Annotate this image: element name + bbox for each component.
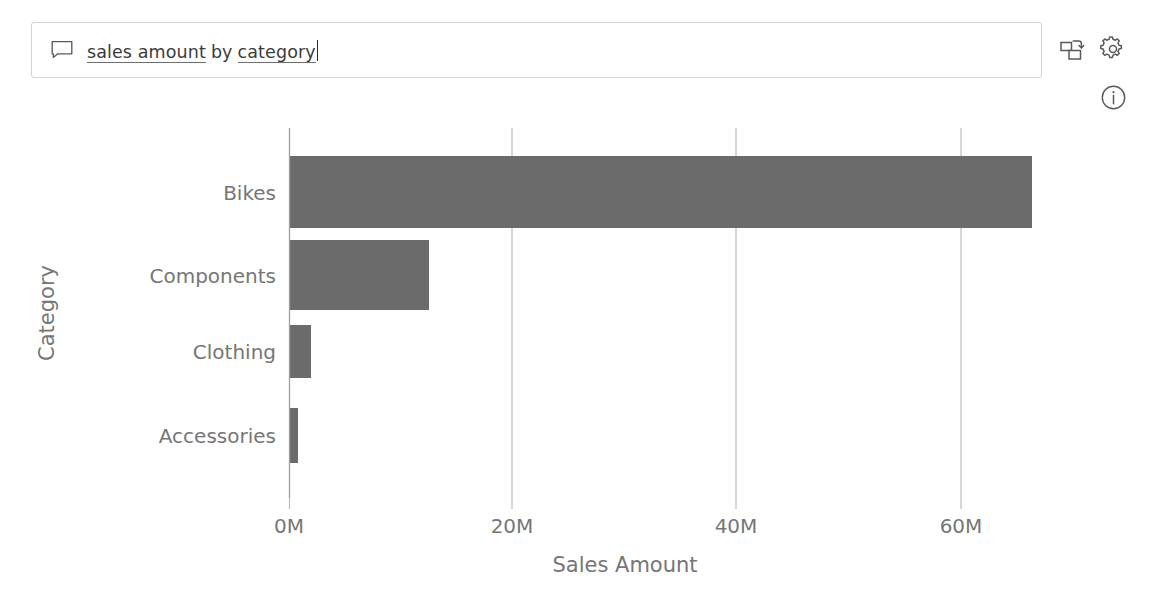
qna-token-keyword: by: [211, 44, 233, 63]
y-category-labels: Bikes Components Clothing Accessories: [149, 181, 276, 448]
x-axis-title: Sales Amount: [552, 553, 697, 577]
qna-search-box[interactable]: sales amount by category: [31, 22, 1042, 78]
category-label-components: Components: [149, 264, 276, 288]
bar-accessories: [290, 408, 298, 463]
speech-bubble-icon: [51, 39, 73, 61]
qna-token-entity-dimension[interactable]: category: [238, 44, 316, 64]
x-tick-labels: 0M 20M 40M 60M: [274, 514, 982, 538]
x-tickmarks: [290, 498, 962, 509]
x-tick-label-2: 40M: [715, 514, 758, 538]
x-tick-label-0: 0M: [274, 514, 304, 538]
switch-visual-button[interactable]: [1058, 36, 1088, 66]
x-tick-label-3: 60M: [940, 514, 983, 538]
text-caret: [317, 40, 318, 61]
qna-query-text[interactable]: sales amount by category: [87, 37, 318, 64]
chart-canvas: 0M 20M 40M 60M Bikes Components Clothing…: [0, 105, 1157, 601]
settings-button[interactable]: [1098, 34, 1128, 64]
bar-series[interactable]: [290, 156, 1032, 463]
bar-clothing: [290, 325, 311, 378]
y-axis-title: Category: [35, 265, 59, 361]
bar-chart[interactable]: 0M 20M 40M 60M Bikes Components Clothing…: [0, 105, 1157, 601]
qna-token-entity-measure[interactable]: sales amount: [87, 44, 206, 64]
switch-visual-icon: [1060, 39, 1086, 63]
gear-icon: [1099, 35, 1127, 63]
category-label-accessories: Accessories: [159, 424, 276, 448]
category-label-clothing: Clothing: [193, 340, 276, 364]
category-label-bikes: Bikes: [223, 181, 276, 205]
bar-bikes: [290, 156, 1032, 228]
bar-components: [290, 240, 429, 310]
x-tick-label-1: 20M: [491, 514, 534, 538]
